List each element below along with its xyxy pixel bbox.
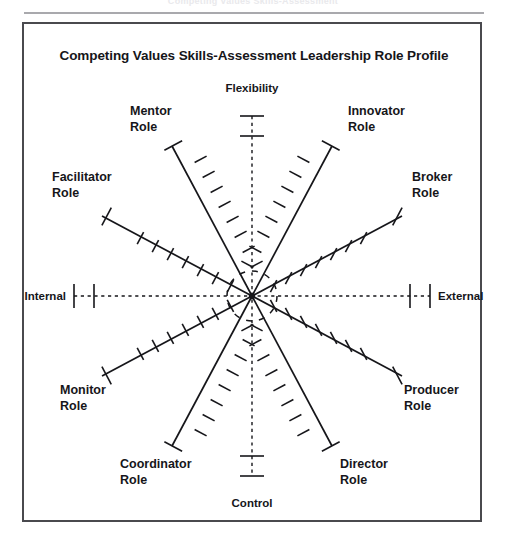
role-label-innovator-line1: Innovator — [348, 104, 405, 118]
role-label-coordinator-line2: Role — [120, 473, 147, 487]
role-label-producer: Producer Role — [404, 383, 459, 413]
role-label-facilitator-line2: Role — [52, 186, 79, 200]
axis-label-flexibility: Flexibility — [225, 82, 279, 94]
running-head: Competing Values Skills-Assessment — [0, 0, 506, 6]
role-label-innovator-line2: Role — [348, 120, 375, 134]
role-label-producer-line1: Producer — [404, 383, 459, 397]
role-label-coordinator: Coordinator Role — [120, 457, 192, 487]
role-label-monitor-line1: Monitor — [60, 383, 106, 397]
role-label-broker: Broker Role — [412, 170, 452, 200]
role-label-mentor-line2: Role — [130, 120, 157, 134]
role-label-mentor-line1: Mentor — [130, 104, 172, 118]
axis-label-external: External — [438, 290, 483, 302]
role-label-monitor: Monitor Role — [60, 383, 106, 413]
role-label-broker-line2: Role — [412, 186, 439, 200]
role-label-monitor-line2: Role — [60, 399, 87, 413]
axis-label-internal: Internal — [24, 290, 66, 302]
role-label-innovator: Innovator Role — [348, 104, 405, 134]
role-label-director-line1: Director — [340, 457, 388, 471]
role-label-coordinator-line1: Coordinator — [120, 457, 192, 471]
role-label-director-line2: Role — [340, 473, 367, 487]
spoke-innovator — [241, 141, 339, 296]
role-label-facilitator: Facilitator Role — [52, 170, 112, 200]
spoke-coordinator — [164, 296, 262, 451]
radar-chart: Flexibility Control Internal External Me… — [24, 24, 484, 524]
figure-page: Competing Values Skills-Assessment Compe… — [0, 0, 506, 544]
chart-center-point — [249, 293, 255, 299]
role-label-facilitator-line1: Facilitator — [52, 170, 112, 184]
role-label-director: Director Role — [340, 457, 388, 487]
role-label-broker-line1: Broker — [412, 170, 452, 184]
spoke-mentor — [164, 141, 262, 296]
header-rule — [24, 12, 484, 14]
spoke-director — [241, 296, 339, 451]
role-label-mentor: Mentor Role — [130, 104, 172, 134]
figure-frame: Competing Values Skills-Assessment Leade… — [22, 22, 482, 522]
role-label-producer-line2: Role — [404, 399, 431, 413]
axis-label-control: Control — [232, 497, 273, 509]
